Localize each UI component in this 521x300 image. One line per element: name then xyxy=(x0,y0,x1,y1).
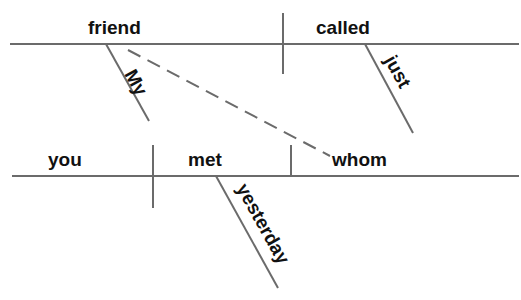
sentence-diagram: friend called My just you met whom yeste… xyxy=(0,0,521,300)
word-you: you xyxy=(48,149,82,170)
word-met: met xyxy=(188,149,222,170)
word-friend: friend xyxy=(88,17,141,38)
word-just: just xyxy=(380,51,416,92)
diagram-svg: friend called My just you met whom yeste… xyxy=(0,0,521,300)
word-whom: whom xyxy=(331,149,387,170)
relative-connector-dashed xyxy=(128,50,330,156)
word-my: My xyxy=(121,66,152,100)
word-called: called xyxy=(316,17,370,38)
